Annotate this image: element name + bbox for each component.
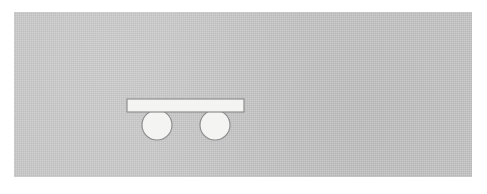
canvas-root — [0, 0, 487, 194]
diagram-panel — [14, 12, 472, 177]
